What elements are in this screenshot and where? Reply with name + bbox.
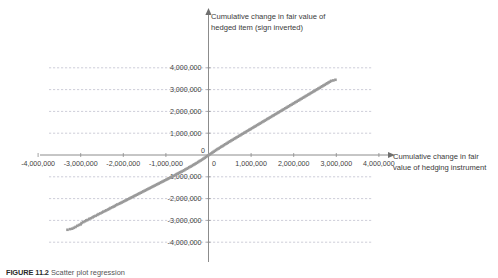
- x-tick-label: -1,000,000: [149, 160, 183, 168]
- axes: [40, 8, 395, 262]
- x-tick-label: 2,000,000: [278, 160, 310, 168]
- x-tick-label: -2,000,000: [106, 160, 140, 168]
- x-tick-label: 4,000,000: [363, 160, 395, 168]
- origin-label-y: 0: [201, 147, 205, 155]
- x-tick-label: -4,000,000: [21, 160, 55, 168]
- y-tick-label: 1,000,000: [170, 130, 202, 138]
- data-point: [66, 228, 69, 231]
- y-tick-label: -3,000,000: [168, 217, 202, 225]
- y-tick-labels: 4,000,0003,000,0002,000,0001,000,000-1,0…: [168, 64, 202, 246]
- figure-caption: FIGURE 11.2 Scatter plot regression: [6, 268, 486, 278]
- figure-caption-text: Scatter plot regression: [51, 268, 125, 277]
- y-tick-label: 2,000,000: [170, 108, 202, 116]
- y-tick-label: -2,000,000: [168, 195, 202, 203]
- x-tick-label: 3,000,000: [321, 160, 353, 168]
- y-tick-label: 3,000,000: [170, 86, 202, 94]
- scatter-plot: 4,000,0003,000,0002,000,0001,000,000-1,0…: [0, 0, 498, 278]
- data-point: [334, 78, 337, 81]
- x-tick-labels: -4,000,000-3,000,000-2,000,000-1,000,000…: [21, 160, 395, 168]
- x-tick-label: 1,000,000: [235, 160, 267, 168]
- figure-caption-number: FIGURE 11.2: [6, 268, 49, 277]
- figure-container: 4,000,0003,000,0002,000,0001,000,000-1,0…: [0, 0, 498, 278]
- y-axis-title: Cumulative change in fair value of hedge…: [211, 12, 331, 33]
- y-tick-label: 4,000,000: [170, 64, 202, 72]
- origin-label-x: 0: [212, 160, 216, 168]
- y-tick-label: -4,000,000: [168, 239, 202, 247]
- x-axis-title: Cumulative change in fair value of hedgi…: [393, 152, 497, 173]
- x-tick-label: -3,000,000: [64, 160, 98, 168]
